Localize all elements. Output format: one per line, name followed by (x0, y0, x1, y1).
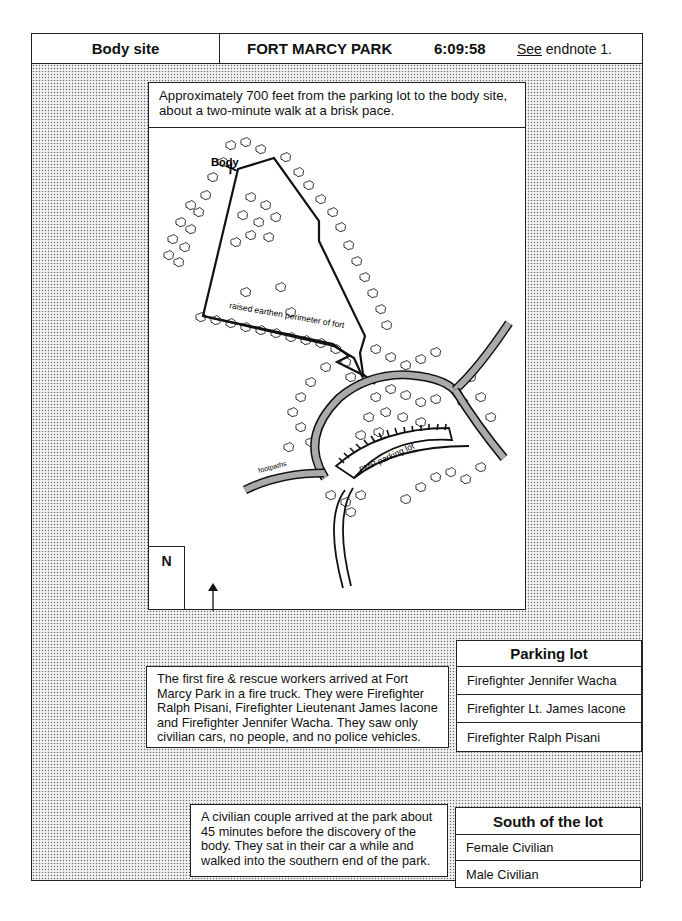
north-indicator-box: N (149, 546, 185, 609)
map-panel: Approximately 700 feet from the parking … (148, 82, 526, 610)
parking-lot-table: Parking lot Firefighter Jennifer Wacha F… (456, 640, 642, 752)
map-caption: Approximately 700 feet from the parking … (149, 83, 525, 128)
table-row: Female Civilian (456, 835, 640, 861)
header-bar: Body site FORT MARCY PARK 6:09:58 See en… (32, 34, 642, 64)
south-of-lot-table: South of the lot Female Civilian Male Ci… (455, 807, 641, 888)
section-title: Body site (32, 34, 220, 63)
fort-perimeter (203, 158, 375, 384)
south-of-lot-title: South of the lot (456, 808, 640, 835)
location-title: FORT MARCY PARK (247, 40, 392, 57)
civilians-description: A civilian couple arrived at the park ab… (190, 804, 448, 877)
north-arrow-icon (207, 583, 219, 611)
table-row: Firefighter Jennifer Wacha (457, 667, 641, 695)
park-map: Body X raised earthen perimeter of fort … (149, 128, 524, 608)
table-row: Male Civilian (456, 861, 640, 887)
table-row: Firefighter Lt. James Iacone (457, 695, 641, 723)
firefighters-description: The first fire & rescue workers arrived … (146, 666, 449, 748)
table-row: Firefighter Ralph Pisani (457, 723, 641, 751)
endnote-link[interactable]: See (517, 41, 542, 57)
timestamp: 6:09:58 (434, 40, 486, 57)
endnote-reference: See endnote 1. (517, 41, 612, 57)
roads (245, 323, 509, 588)
parking-lot-title: Parking lot (457, 641, 641, 667)
